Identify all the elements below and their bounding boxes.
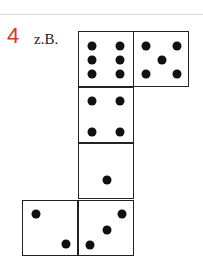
pip-dot [86, 241, 95, 250]
example-label: z.B. [34, 31, 58, 47]
pip-dot [116, 128, 125, 137]
pip-dot [88, 42, 97, 51]
pip-dot [88, 97, 97, 106]
die-face-four [78, 87, 134, 143]
pip-dot [32, 210, 41, 219]
pip-dot [62, 240, 71, 249]
pip-dot [116, 56, 125, 65]
pip-dot [116, 97, 125, 106]
pip-dot [173, 42, 182, 51]
die-face-six [78, 31, 134, 87]
die-face-five [133, 31, 189, 87]
pip-dot [116, 70, 125, 79]
pip-dot [88, 70, 97, 79]
pip-dot [142, 42, 151, 51]
header-rule [0, 14, 203, 15]
exercise-number: 4 [7, 25, 19, 47]
pip-dot [88, 56, 97, 65]
pip-dot [142, 70, 151, 79]
pip-dot [173, 70, 182, 79]
pip-dot [88, 128, 97, 137]
pip-dot [118, 210, 127, 219]
pip-dot [103, 226, 112, 235]
die-face-two [22, 200, 78, 256]
pip-dot [103, 176, 112, 185]
die-face-one [78, 143, 134, 199]
pip-dot [158, 56, 167, 65]
pip-dot [116, 42, 125, 51]
die-face-three [78, 200, 134, 256]
